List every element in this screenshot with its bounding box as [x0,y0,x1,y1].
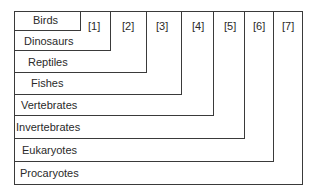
marker-7: [7] [282,20,294,32]
label-vertebrates: Vertebrates [21,99,77,111]
marker-5: [5] [224,20,236,32]
marker-3: [3] [156,20,168,32]
label-fishes: Fishes [31,77,63,89]
label-eukaryotes: Eukaryotes [22,144,77,156]
label-reptiles: Reptiles [28,56,68,68]
label-dinosaurs: Dinosaurs [24,35,74,47]
marker-1: [1] [88,20,100,32]
marker-6: [6] [253,20,265,32]
label-procaryotes: Procaryotes [20,167,79,179]
marker-4: [4] [192,20,204,32]
label-invertebrates: Invertebrates [16,121,80,133]
label-birds: Birds [33,14,58,26]
marker-2: [2] [122,20,134,32]
